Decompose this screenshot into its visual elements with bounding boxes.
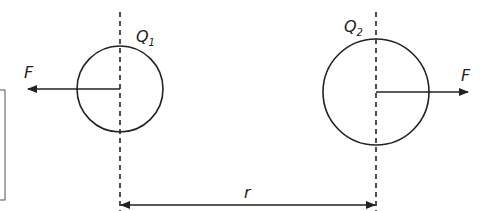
separation-label: r [244,183,252,202]
charge-label-2: Q2 [344,17,363,38]
separation-dimension: r [121,183,375,205]
force-label-1: F [24,63,34,82]
charge-1: F Q1 [24,12,163,211]
charge-label-1: Q1 [136,27,155,48]
force-label-2: F [461,66,471,85]
charge-2: F Q2 [323,12,471,211]
partial-frame [0,90,5,200]
coulomb-force-diagram: F Q1 F Q2 r [0,0,493,211]
